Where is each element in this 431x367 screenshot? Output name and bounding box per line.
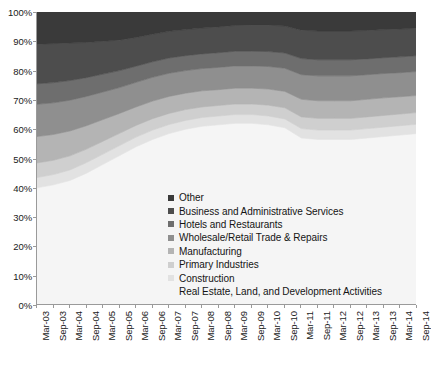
legend-swatch-icon [168,288,174,294]
x-tick-mark [135,305,136,308]
x-tick-mark [201,305,202,308]
x-tick-label: Mar-12 [337,311,348,341]
x-tick-mark [366,305,367,308]
x-tick-label: Mar-05 [106,311,117,341]
x-tick-mark [317,305,318,308]
legend-label: Business and Administrative Services [179,206,343,217]
x-axis: Mar-03Sep-03Mar-04Sep-04Mar-05Sep-05Mar-… [36,305,416,367]
x-tick-label: Mar-08 [205,311,216,341]
y-tick-label: 80% [13,66,32,75]
x-tick-label: Mar-13 [370,311,381,341]
legend-label: Real Estate, Land, and Development Activ… [179,286,382,297]
x-tick-mark [416,305,417,308]
x-tick-label: Sep-07 [189,311,200,341]
legend-swatch-icon [168,248,174,254]
x-tick-mark [168,305,169,308]
legend-item[interactable]: Construction [168,271,414,284]
x-tick-mark [102,305,103,308]
y-tick-label: 20% [13,242,32,251]
legend-label: Hotels and Restaurants [179,219,282,230]
x-tick-label: Mar-14 [403,311,414,341]
x-tick-label: Mar-04 [73,311,84,341]
y-tick-label: 10% [13,271,32,280]
x-tick-label: Sep-14 [420,311,431,341]
y-tick-label: 90% [13,37,32,46]
x-tick-label: Sep-11 [321,311,332,340]
x-tick-mark [284,305,285,308]
x-tick-mark [267,305,268,308]
x-tick-mark [251,305,252,308]
legend-item[interactable]: Real Estate, Land, and Development Activ… [168,285,414,298]
x-tick-mark [383,305,384,308]
legend-item[interactable]: Manufacturing [168,245,414,258]
y-tick-label: 0% [18,301,32,310]
legend-item[interactable]: Wholesale/Retail Trade & Repairs [168,231,414,244]
y-tick-label: 40% [13,183,32,192]
legend-label: Manufacturing [179,246,242,257]
x-tick-label: Sep-06 [156,311,167,341]
legend-label: Wholesale/Retail Trade & Repairs [179,232,327,243]
legend-label: Construction [179,273,235,284]
legend-swatch-icon [168,262,174,268]
x-tick-mark [185,305,186,308]
legend-swatch-icon [168,208,174,214]
x-tick-label: Sep-10 [288,311,299,341]
x-tick-label: Mar-06 [139,311,150,341]
x-tick-label: Mar-09 [238,311,249,341]
y-axis: 0%10%20%30%40%50%60%70%80%90%100% [0,0,36,317]
x-tick-mark [69,305,70,308]
y-tick-label: 30% [13,213,32,222]
x-tick-label: Mar-07 [172,311,183,341]
x-tick-label: Sep-09 [255,311,266,341]
legend-label: Other [179,192,204,203]
chart-legend: OtherBusiness and Administrative Service… [168,191,414,298]
x-tick-label: Mar-03 [40,311,51,341]
x-tick-label: Sep-13 [387,311,398,341]
x-tick-mark [53,305,54,308]
legend-item[interactable]: Hotels and Restaurants [168,218,414,231]
x-tick-label: Mar-10 [271,311,282,341]
x-tick-label: Sep-12 [354,311,365,341]
x-tick-mark [119,305,120,308]
y-tick-label: 100% [8,8,32,17]
x-tick-mark [36,305,37,308]
x-tick-label: Sep-08 [222,311,233,341]
x-tick-mark [350,305,351,308]
x-tick-mark [399,305,400,308]
x-tick-mark [234,305,235,308]
y-tick-label: 70% [13,95,32,104]
x-tick-mark [300,305,301,308]
legend-swatch-icon [168,235,174,241]
legend-item[interactable]: Other [168,191,414,204]
legend-label: Primary Industries [179,259,259,270]
x-tick-label: Sep-05 [123,311,134,341]
legend-item[interactable]: Primary Industries [168,258,414,271]
y-tick-label: 50% [13,154,32,163]
legend-item[interactable]: Business and Administrative Services [168,204,414,217]
legend-swatch-icon [168,221,174,227]
x-tick-mark [152,305,153,308]
x-tick-mark [218,305,219,308]
y-tick-label: 60% [13,125,32,134]
x-tick-label: Sep-04 [90,311,101,341]
legend-swatch-icon [168,195,174,201]
x-tick-mark [86,305,87,308]
x-tick-label: Mar-11 [304,311,315,340]
x-tick-label: Sep-03 [57,311,68,341]
x-tick-mark [333,305,334,308]
legend-swatch-icon [168,275,174,281]
